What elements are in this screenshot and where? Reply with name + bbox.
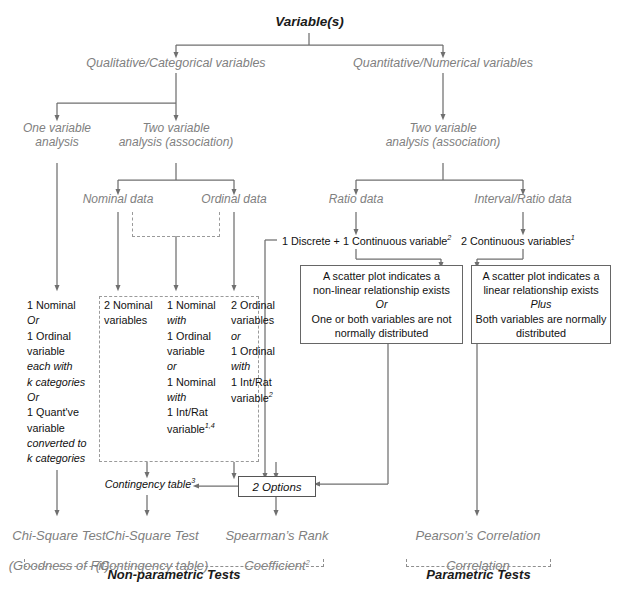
non-parametric-bracket	[24, 559, 324, 567]
variable-line: 2 Nominal	[104, 298, 166, 313]
condition-line: One or both variables are not	[312, 312, 452, 326]
label-two-continuous-text: 2 Continuous variables	[461, 235, 571, 247]
non-linear-condition-box: A scatter plot indicates anon-linear rel…	[300, 265, 463, 344]
condition-line: Both variables are normally	[476, 312, 607, 326]
variable-line: k categories	[27, 451, 97, 466]
variable-line-sup: 1,4	[205, 421, 215, 430]
variable-line: 1 Ordinal	[231, 344, 293, 359]
variable-line: 1 Ordinal	[167, 329, 229, 344]
variable-line: or	[167, 359, 229, 374]
label-two-continuous-sup: 1	[571, 233, 575, 242]
variable-line: variables	[231, 313, 293, 328]
group-label-parametric: Parametric Tests	[406, 568, 551, 583]
label-discrete-plus-continuous-sup: 2	[447, 233, 451, 242]
variable-line: with	[167, 390, 229, 405]
condition-line: Or	[376, 297, 388, 311]
flowchart-canvas: Variable(s) Qualitative/Categorical vari…	[0, 0, 618, 607]
node-ordinal-data: Ordinal data	[185, 193, 283, 207]
condition-line: Plus	[530, 297, 551, 311]
nominal-mixed-column: 1 Nominalwith1 Ordinalvariableor1 Nomina…	[167, 298, 229, 437]
condition-line: A scatter plot indicates a	[323, 269, 440, 283]
variable-line: converted to	[27, 436, 97, 451]
variable-line: variable1,4	[167, 421, 229, 437]
ordinal-column: 2 Ordinalvariablesor1 Ordinalwith1 Int/R…	[231, 298, 293, 406]
condition-line: normally distributed	[335, 326, 429, 340]
variable-line: 1 Quant've	[27, 405, 97, 420]
variable-line: k categories	[27, 375, 97, 390]
condition-line: linear relationship exists	[483, 283, 598, 297]
test-line1: Spearman’s Rank	[216, 529, 338, 544]
variable-line: variable	[167, 344, 229, 359]
variable-line: Or	[27, 390, 97, 405]
variable-line: with	[231, 359, 293, 374]
label-discrete-plus-continuous: 1 Discrete + 1 Continuous variable2	[282, 233, 462, 247]
group-label-non-parametric: Non-parametric Tests	[24, 568, 324, 583]
node-nominal-data: Nominal data	[68, 193, 168, 207]
node-quantitative-variables: Quantitative/Numerical variables	[323, 56, 563, 70]
nominal-ordinal-join-dashbox	[132, 212, 220, 237]
variable-line: each with	[27, 359, 97, 374]
test-line1: Chi-Square Test	[88, 529, 216, 544]
condition-line: distributed	[516, 326, 566, 340]
variable-line: variable2	[231, 390, 293, 406]
variable-line-sup: 2	[269, 390, 273, 399]
parametric-bracket	[406, 559, 551, 567]
variable-line: variable	[27, 421, 97, 436]
condition-line: A scatter plot indicates a	[482, 269, 599, 283]
test-line1: Pearson’s Correlation	[404, 529, 552, 544]
variable-line: variables	[104, 313, 166, 328]
node-interval-ratio-data: Interval/Ratio data	[458, 193, 588, 207]
node-qualitative-variables: Qualitative/Categorical variables	[56, 56, 296, 70]
variable-line: 1 Int/Rat	[167, 405, 229, 420]
variable-line: 1 Nominal	[27, 298, 97, 313]
variable-line: 1 Int/Rat	[231, 375, 293, 390]
two-nominal-column: 2 Nominalvariables	[104, 298, 166, 329]
condition-line: non-linear relationship exists	[313, 283, 450, 297]
variable-line: Or	[27, 313, 97, 328]
two-options-box[interactable]: 2 Options	[238, 476, 316, 497]
node-one-variable-analysis: One variable analysis	[7, 122, 107, 150]
root-node-variables: Variable(s)	[237, 14, 382, 30]
variable-line: 1 Nominal	[167, 375, 229, 390]
node-ratio-data: Ratio data	[311, 193, 401, 207]
linear-condition-box: A scatter plot indicates alinear relatio…	[471, 265, 611, 344]
variable-line: with	[167, 313, 229, 328]
variable-line: variable	[27, 344, 97, 359]
variable-line: 2 Ordinal	[231, 298, 293, 313]
label-two-continuous: 2 Continuous variables1	[461, 233, 611, 247]
contingency-table-sup: 3	[191, 476, 195, 485]
label-discrete-plus-continuous-text: 1 Discrete + 1 Continuous variable	[282, 235, 447, 247]
variable-line: 1 Ordinal	[27, 329, 97, 344]
variable-line: 1 Nominal	[167, 298, 229, 313]
node-two-variable-analysis-numerical: Two variable analysis (association)	[368, 122, 518, 150]
variable-line: or	[231, 329, 293, 344]
one-variable-column: 1 NominalOr1 Ordinalvariableeach withk c…	[27, 298, 97, 467]
node-two-variable-analysis-categorical: Two variable analysis (association)	[101, 122, 251, 150]
contingency-table-label: Contingency table3	[95, 476, 205, 490]
contingency-table-text: Contingency table	[105, 478, 191, 490]
